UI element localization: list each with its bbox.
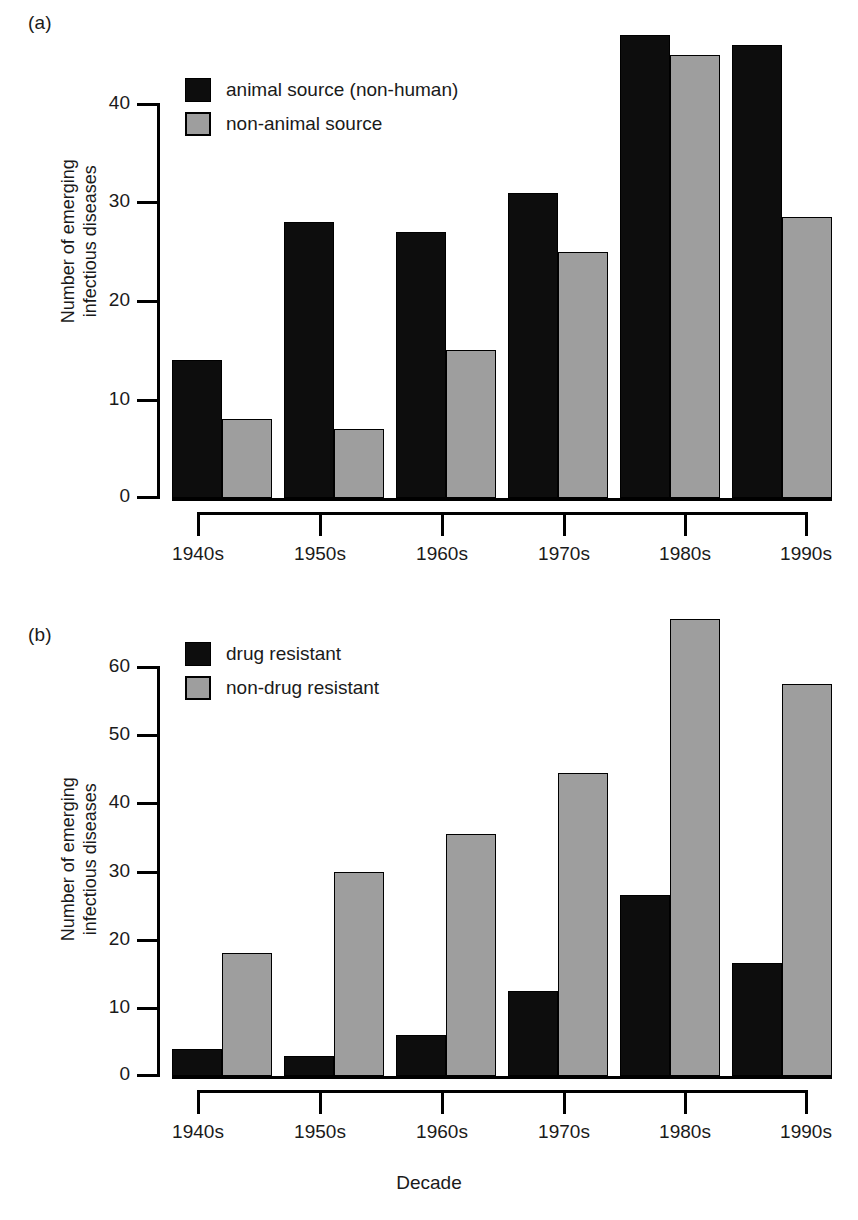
legend-swatch-gray-icon: [185, 676, 211, 700]
panel-a-legend-item-non-animal-source: non-animal source: [185, 107, 458, 141]
panel-a-bar-1950s-animal: [284, 222, 334, 498]
panel-b-ytick-label-20: 20: [75, 928, 130, 950]
panel-a-legend: animal source (non-human) non-animal sou…: [185, 73, 458, 141]
panel-a-bar-1960s-animal: [396, 232, 446, 498]
panel-b-legend-label-0: drug resistant: [226, 643, 341, 665]
panel-a-bar-1950s-nonanimal: [334, 429, 384, 498]
panel-a-xtick-label-1980s: 1980s: [630, 543, 740, 565]
panel-b-ytick-40: [137, 802, 160, 805]
panel-b-legend-label-1: non-drug resistant: [226, 677, 379, 699]
panel-a-legend-label-0: animal source (non-human): [226, 79, 458, 101]
panel-a-xtick-label-1960s: 1960s: [387, 543, 497, 565]
panel-a-ytick-30: [137, 201, 160, 204]
panel-b-legend-item-drug-resistant: drug resistant: [185, 637, 379, 671]
panel-a-ytick-label-30: 30: [75, 190, 130, 212]
panel-b-bar-1980s-drug-resistant: [620, 895, 670, 1076]
panel-a-bar-1940s-animal: [172, 360, 222, 498]
panel-a-bar-1970s-animal: [508, 193, 558, 498]
panel-b-xtick-label-1980s: 1980s: [630, 1121, 740, 1143]
panel-b-bar-1940s-non-drug-resistant: [222, 953, 272, 1076]
panel-b-ytick-label-10: 10: [75, 996, 130, 1018]
panel-b-ytick-10: [137, 1007, 160, 1010]
figure-emerging-infectious-diseases: (a) Number of emerging infectious diseas…: [0, 0, 858, 1220]
panel-b-bar-1950s-non-drug-resistant: [334, 872, 384, 1076]
panel-b-ytick-label-50: 50: [75, 723, 130, 745]
panel-a-legend-item-animal-source: animal source (non-human): [185, 73, 458, 107]
panel-b-ytick-50: [137, 734, 160, 737]
panel-a-xtick-1980s: [684, 512, 687, 536]
panel-a-ylabel-line2: infectious diseases: [79, 81, 102, 401]
panel-b-bar-1940s-drug-resistant: [172, 1049, 222, 1076]
panel-b-bar-1970s-non-drug-resistant: [558, 773, 608, 1076]
panel-a-ytick-label-10: 10: [75, 388, 130, 410]
panel-a-xtick-label-1970s: 1970s: [509, 543, 619, 565]
panel-a-bar-1990s-nonanimal: [782, 217, 832, 498]
panel-a-xtick-label-1990s: 1990s: [751, 543, 858, 565]
panel-b-bar-1990s-drug-resistant: [732, 963, 782, 1076]
panel-b-bar-1980s-non-drug-resistant: [670, 619, 720, 1076]
panel-b-xtick-1960s: [441, 1090, 444, 1114]
panel-b-bar-1960s-drug-resistant: [396, 1035, 446, 1076]
panel-b-legend-item-non-drug-resistant: non-drug resistant: [185, 671, 379, 705]
panel-b-ytick-label-30: 30: [75, 860, 130, 882]
panel-b-x-axis-baseline: [172, 1076, 832, 1079]
legend-swatch-black-icon: [185, 78, 211, 102]
panel-b-x-axis-rail: [197, 1090, 807, 1093]
panel-a-ytick-40: [137, 103, 160, 106]
panel-b-bar-1950s-drug-resistant: [284, 1056, 334, 1076]
panel-b-ytick-label-40: 40: [75, 791, 130, 813]
panel-a-xtick-1970s: [563, 512, 566, 536]
panel-a-ytick-20: [137, 300, 160, 303]
panel-b-xtick-label-1990s: 1990s: [751, 1121, 858, 1143]
panel-a-bar-1970s-nonanimal: [558, 252, 608, 498]
panel-a-bar-1990s-animal: [732, 45, 782, 498]
panel-a-xtick-label-1940s: 1940s: [143, 543, 253, 565]
panel-a-ytick-label-0: 0: [75, 485, 130, 507]
panel-a-xtick-1940s: [197, 512, 200, 536]
panel-a-ytick-0: [137, 496, 160, 499]
panel-a-bar-1960s-nonanimal: [446, 350, 496, 498]
panel-a-ytick-label-20: 20: [75, 289, 130, 311]
panel-b-ytick-60: [137, 666, 160, 669]
panel-b-bar-1990s-non-drug-resistant: [782, 684, 832, 1076]
panel-b-ytick-0: [137, 1074, 160, 1077]
panel-b-xtick-label-1970s: 1970s: [509, 1121, 619, 1143]
panel-b-xaxis-title: Decade: [0, 1172, 858, 1194]
panel-a-legend-label-1: non-animal source: [226, 113, 382, 135]
panel-a-xtick-1960s: [441, 512, 444, 536]
panel-b-xtick-1950s: [319, 1090, 322, 1114]
panel-b-xtick-1940s: [197, 1090, 200, 1114]
panel-b-ytick-30: [137, 871, 160, 874]
panel-a-bar-1980s-nonanimal: [670, 55, 720, 498]
panel-b-xtick-1990s: [805, 1090, 808, 1114]
panel-b-ytick-label-0: 0: [75, 1063, 130, 1085]
legend-swatch-gray-icon: [185, 112, 211, 136]
panel-a-ytick-label-40: 40: [75, 92, 130, 114]
panel-b-ytick-label-60: 60: [75, 655, 130, 677]
panel-a-xtick-label-1950s: 1950s: [265, 543, 375, 565]
legend-swatch-black-icon: [185, 642, 211, 666]
panel-a-bar-1980s-animal: [620, 35, 670, 498]
panel-b-xtick-label-1940s: 1940s: [143, 1121, 253, 1143]
panel-b-ytick-20: [137, 939, 160, 942]
chart-panel-b: (b) Number of emerging infectious diseas…: [0, 600, 858, 1220]
panel-b-tag: (b): [28, 624, 52, 646]
panel-b-legend: drug resistant non-drug resistant: [185, 637, 379, 705]
panel-b-xtick-label-1950s: 1950s: [265, 1121, 375, 1143]
panel-b-xtick-1970s: [563, 1090, 566, 1114]
panel-b-bar-1970s-drug-resistant: [508, 991, 558, 1076]
panel-b-xtick-1980s: [684, 1090, 687, 1114]
panel-a-ytick-10: [137, 399, 160, 402]
panel-a-tag: (a): [28, 12, 52, 34]
panel-a-x-axis-rail: [197, 512, 807, 515]
panel-a-x-axis-baseline: [172, 498, 832, 501]
panel-b-bar-1960s-non-drug-resistant: [446, 834, 496, 1076]
panel-b-xtick-label-1960s: 1960s: [387, 1121, 497, 1143]
chart-panel-a: (a) Number of emerging infectious diseas…: [0, 0, 858, 600]
panel-a-xtick-1950s: [319, 512, 322, 536]
panel-a-xtick-1990s: [805, 512, 808, 536]
panel-a-bar-1940s-nonanimal: [222, 419, 272, 498]
